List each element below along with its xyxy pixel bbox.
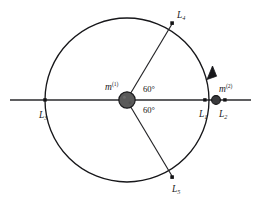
angle-label-upper: 60° bbox=[143, 84, 156, 94]
point-marker-l5 bbox=[170, 175, 174, 179]
primary-mass-label: m(1) bbox=[105, 81, 119, 92]
angle-label-lower: 60° bbox=[143, 105, 156, 115]
primary-mass-texture-2 bbox=[129, 101, 132, 104]
lagrange-diagram-figure: m(1) m(2) 60° 60° L1 L2 L3 L4 L5 bbox=[0, 0, 256, 201]
orbit-direction-arrow-icon bbox=[207, 66, 217, 80]
secondary-mass-dot bbox=[212, 96, 221, 105]
point-marker-l3 bbox=[43, 98, 46, 101]
point-marker-l4 bbox=[170, 21, 174, 25]
secondary-mass-label-superscript: (2) bbox=[226, 83, 233, 90]
label-l1: L1 bbox=[198, 109, 207, 120]
label-l3-subscript: 3 bbox=[43, 114, 47, 121]
label-l5-subscript: 5 bbox=[177, 188, 180, 195]
primary-mass-label-superscript: (1) bbox=[112, 81, 119, 88]
label-l2: L2 bbox=[218, 109, 227, 120]
diagram-canvas: m(1) m(2) 60° 60° L1 L2 L3 L4 L5 bbox=[0, 0, 256, 201]
primary-mass-dot bbox=[119, 92, 135, 108]
point-marker-l1 bbox=[203, 98, 206, 101]
label-l2-subscript: 2 bbox=[224, 113, 227, 120]
label-l4: L4 bbox=[176, 10, 185, 21]
label-l1-subscript: 1 bbox=[204, 113, 207, 120]
label-l4-subscript: 4 bbox=[182, 14, 185, 21]
point-marker-l2 bbox=[223, 98, 226, 101]
secondary-mass-label: m(2) bbox=[219, 83, 233, 94]
label-l5: L5 bbox=[171, 184, 180, 195]
primary-mass-texture bbox=[123, 96, 126, 99]
